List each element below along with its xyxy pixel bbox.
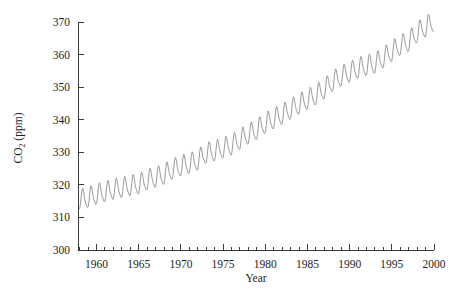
- y-axis-title-main: CO: [12, 148, 24, 164]
- x-tick-labels-group: 196019651970197519801985199019952000: [85, 258, 446, 270]
- co2-data-line: [80, 14, 434, 209]
- y-axis-title: CO2 (ppm): [12, 112, 27, 163]
- x-tick-label: 1980: [254, 258, 277, 270]
- x-tick-label: 1990: [338, 258, 361, 270]
- axis-ticks-group: [78, 22, 434, 250]
- y-tick-label: 300: [53, 244, 71, 256]
- y-tick-label: 350: [53, 81, 71, 93]
- y-tick-label: 370: [53, 16, 71, 28]
- y-tick-label: 360: [53, 49, 71, 61]
- x-tick-label: 1960: [85, 258, 108, 270]
- x-tick-label: 1975: [212, 258, 235, 270]
- x-tick-label: 1985: [296, 258, 319, 270]
- x-tick-label: 1995: [380, 258, 403, 270]
- y-axis-title-text: CO2 (ppm): [12, 112, 27, 163]
- y-tick-label: 320: [53, 179, 71, 191]
- y-axis-title-unit: (ppm): [12, 112, 25, 143]
- x-tick-label: 1970: [169, 258, 192, 270]
- x-tick-label: 1965: [127, 258, 150, 270]
- chart-figure: 300310320330340350360370 196019651970197…: [0, 0, 458, 292]
- y-tick-label: 330: [53, 146, 71, 158]
- x-tick-label: 2000: [423, 258, 446, 270]
- y-tick-label: 310: [53, 211, 71, 223]
- y-tick-labels-group: 300310320330340350360370: [53, 16, 71, 256]
- x-axis-title: Year: [245, 272, 266, 284]
- y-tick-label: 340: [53, 114, 71, 126]
- co2-line-chart-svg: 300310320330340350360370 196019651970197…: [0, 0, 458, 292]
